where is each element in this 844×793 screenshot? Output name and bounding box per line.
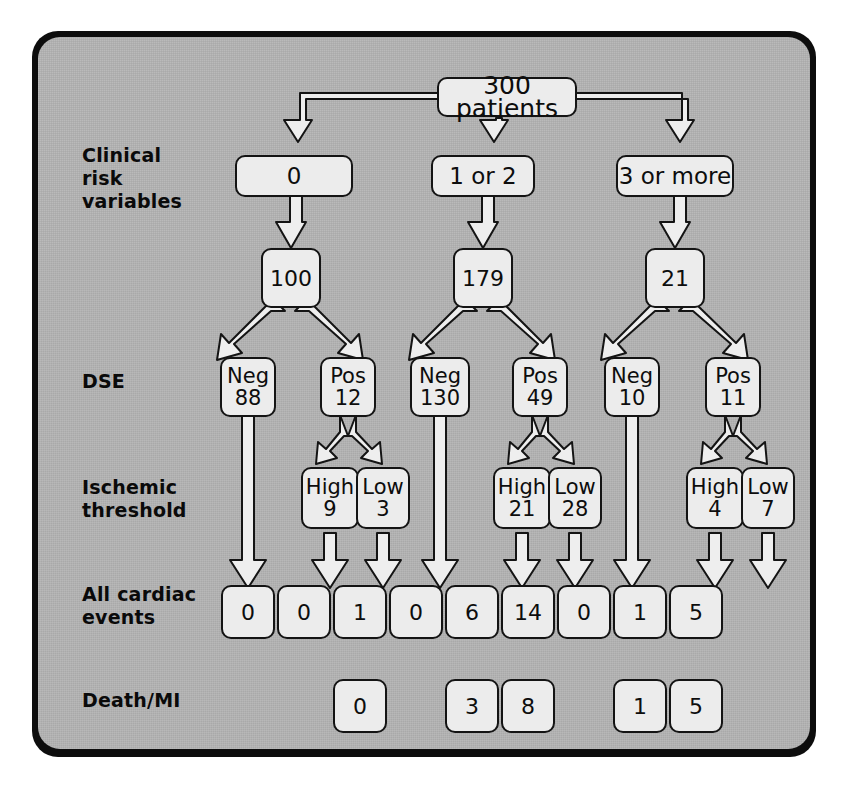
node-threshold-4[interactable]: High 4 bbox=[686, 467, 744, 529]
node-cardiac-event-0-value: 0 bbox=[241, 601, 255, 624]
row-label-ischemic-threshold: Ischemic threshold bbox=[82, 476, 187, 522]
node-death-mi-3-value: 1 bbox=[633, 695, 647, 718]
node-total-patients-label: 300 patients bbox=[439, 74, 575, 120]
node-threshold-2[interactable]: High 21 bbox=[493, 467, 551, 529]
node-cardiac-event-0[interactable]: 0 bbox=[221, 585, 275, 639]
node-cardiac-event-5[interactable]: 14 bbox=[501, 585, 555, 639]
node-threshold-0-count: 9 bbox=[323, 498, 336, 520]
arrow-high9-to-event2 bbox=[312, 533, 348, 588]
node-death-mi-2[interactable]: 8 bbox=[501, 679, 555, 733]
node-dse-3-result: Pos bbox=[522, 365, 558, 387]
node-threshold-1-count: 3 bbox=[376, 498, 389, 520]
arrow-pos12-to-high bbox=[316, 415, 348, 464]
arrow-pos49-to-low bbox=[540, 415, 574, 464]
node-threshold-3-count: 28 bbox=[562, 498, 589, 520]
node-death-mi-4[interactable]: 5 bbox=[669, 679, 723, 733]
node-death-mi-0[interactable]: 0 bbox=[333, 679, 387, 733]
node-threshold-5-count: 7 bbox=[761, 498, 774, 520]
node-cardiac-event-4-value: 6 bbox=[465, 601, 479, 624]
arrow-count2-to-neg bbox=[601, 306, 669, 360]
arrow-pos12-to-low bbox=[348, 415, 382, 464]
node-threshold-3[interactable]: Low 28 bbox=[548, 467, 602, 529]
arrow-high4-to-event8 bbox=[697, 533, 733, 588]
node-risk-group-0-label: 0 bbox=[287, 165, 302, 188]
node-group-count-1[interactable]: 179 bbox=[453, 248, 513, 308]
node-dse-4[interactable]: Neg 10 bbox=[604, 357, 660, 417]
arrow-pos11-to-low bbox=[733, 415, 767, 464]
node-risk-group-1-label: 1 or 2 bbox=[449, 165, 516, 188]
node-cardiac-event-8-value: 5 bbox=[689, 601, 703, 624]
arrow-risk2-to-count2 bbox=[660, 194, 690, 248]
arrow-root-to-risk0 bbox=[284, 93, 445, 142]
node-group-count-0[interactable]: 100 bbox=[261, 248, 321, 308]
node-dse-0-result: Neg bbox=[227, 365, 269, 387]
arrow-low3-to-event3 bbox=[365, 533, 401, 588]
arrow-risk0-to-count0 bbox=[276, 194, 306, 248]
arrow-high21-to-event5 bbox=[504, 533, 540, 588]
node-total-patients[interactable]: 300 patients bbox=[437, 77, 577, 117]
node-dse-2[interactable]: Neg 130 bbox=[410, 357, 470, 417]
node-cardiac-event-7[interactable]: 1 bbox=[613, 585, 667, 639]
node-cardiac-event-8[interactable]: 5 bbox=[669, 585, 723, 639]
node-death-mi-1[interactable]: 3 bbox=[445, 679, 499, 733]
arrow-count0-to-pos bbox=[295, 306, 363, 360]
node-risk-group-2-label: 3 or more bbox=[619, 165, 731, 188]
node-dse-2-count: 130 bbox=[420, 387, 460, 409]
node-dse-4-result: Neg bbox=[611, 365, 653, 387]
arrow-low28-to-event6 bbox=[557, 533, 593, 588]
node-dse-5-result: Pos bbox=[715, 365, 751, 387]
node-threshold-2-level: High bbox=[498, 476, 546, 498]
node-dse-0[interactable]: Neg 88 bbox=[220, 357, 276, 417]
node-risk-group-0[interactable]: 0 bbox=[235, 155, 353, 197]
node-dse-3[interactable]: Pos 49 bbox=[512, 357, 568, 417]
arrow-neg10-to-event7 bbox=[614, 415, 650, 588]
node-cardiac-event-4[interactable]: 6 bbox=[445, 585, 499, 639]
node-group-count-1-value: 179 bbox=[462, 267, 504, 290]
node-cardiac-event-3[interactable]: 0 bbox=[389, 585, 443, 639]
node-cardiac-event-7-value: 1 bbox=[633, 601, 647, 624]
diagram-root: .arw{fill:#eeeeee;stroke:#141414;stroke-… bbox=[0, 0, 844, 793]
node-dse-1-result: Pos bbox=[330, 365, 366, 387]
node-threshold-0[interactable]: High 9 bbox=[301, 467, 359, 529]
node-dse-2-result: Neg bbox=[419, 365, 461, 387]
node-dse-1-count: 12 bbox=[335, 387, 362, 409]
node-risk-group-1[interactable]: 1 or 2 bbox=[431, 155, 535, 197]
node-threshold-5[interactable]: Low 7 bbox=[741, 467, 795, 529]
node-threshold-4-count: 4 bbox=[708, 498, 721, 520]
arrow-pos11-to-high bbox=[701, 415, 733, 464]
node-threshold-1[interactable]: Low 3 bbox=[356, 467, 410, 529]
node-death-mi-3[interactable]: 1 bbox=[613, 679, 667, 733]
arrow-low7-to-event9 bbox=[750, 533, 786, 588]
node-death-mi-0-value: 0 bbox=[353, 695, 367, 718]
node-cardiac-event-2[interactable]: 1 bbox=[333, 585, 387, 639]
arrow-count0-to-neg bbox=[217, 306, 285, 360]
node-dse-4-count: 10 bbox=[619, 387, 646, 409]
arrow-count1-to-neg bbox=[409, 306, 477, 360]
node-dse-5-count: 11 bbox=[720, 387, 747, 409]
node-dse-3-count: 49 bbox=[527, 387, 554, 409]
node-threshold-2-count: 21 bbox=[509, 498, 536, 520]
node-threshold-5-level: Low bbox=[747, 476, 788, 498]
node-cardiac-event-5-value: 14 bbox=[514, 601, 542, 624]
node-cardiac-event-2-value: 1 bbox=[353, 601, 367, 624]
node-dse-1[interactable]: Pos 12 bbox=[320, 357, 376, 417]
arrow-risk1-to-count1 bbox=[468, 194, 498, 248]
arrow-pos49-to-high bbox=[508, 415, 540, 464]
arrow-neg130-to-event4 bbox=[422, 415, 458, 588]
arrow-root-to-risk2 bbox=[569, 93, 694, 142]
node-group-count-2[interactable]: 21 bbox=[645, 248, 705, 308]
node-threshold-4-level: High bbox=[691, 476, 739, 498]
node-risk-group-2[interactable]: 3 or more bbox=[616, 155, 734, 197]
row-label-death-mi: Death/MI bbox=[82, 689, 181, 712]
node-cardiac-event-6-value: 0 bbox=[577, 601, 591, 624]
node-cardiac-event-1[interactable]: 0 bbox=[277, 585, 331, 639]
node-threshold-3-level: Low bbox=[554, 476, 595, 498]
node-dse-0-count: 88 bbox=[235, 387, 262, 409]
row-label-clinical-risk-variables: Clinical risk variables bbox=[82, 144, 182, 213]
node-group-count-2-value: 21 bbox=[661, 267, 689, 290]
arrow-count2-to-pos bbox=[679, 306, 748, 360]
node-threshold-1-level: Low bbox=[362, 476, 403, 498]
node-dse-5[interactable]: Pos 11 bbox=[705, 357, 761, 417]
node-threshold-0-level: High bbox=[306, 476, 354, 498]
node-cardiac-event-6[interactable]: 0 bbox=[557, 585, 611, 639]
